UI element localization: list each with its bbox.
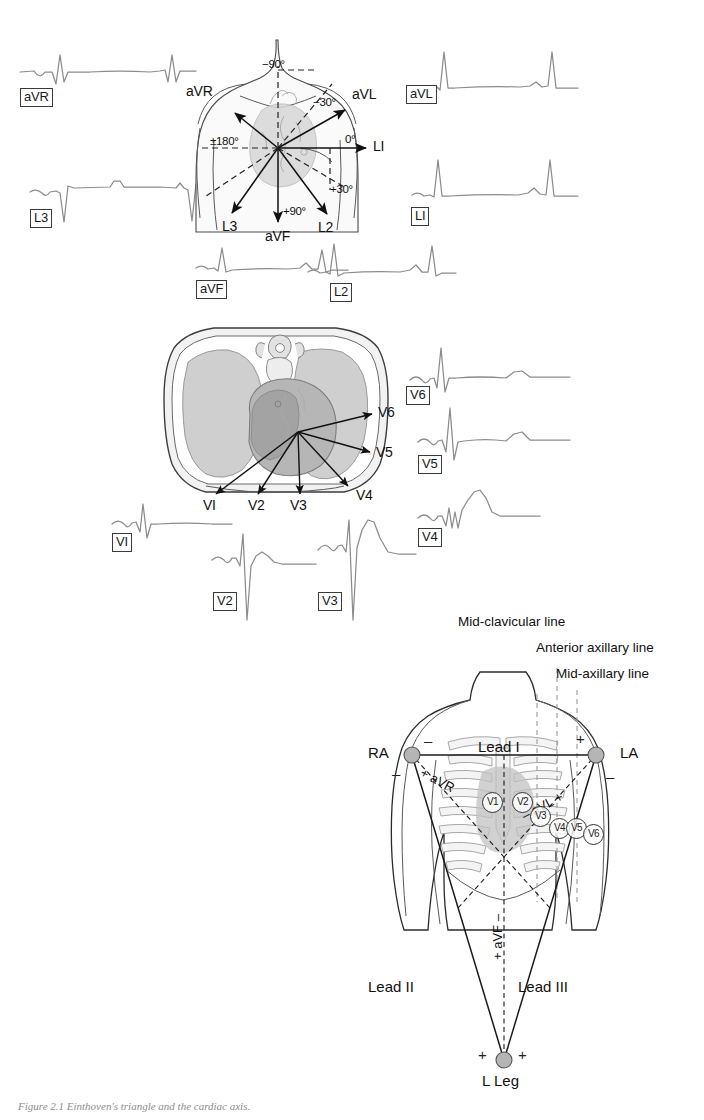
precordial-arrow-label-V1: VI [203, 497, 216, 513]
polarity-lleg-right: + [518, 1046, 527, 1063]
precordial-arrow-label-V4: V4 [356, 487, 373, 503]
axis-label-L3: L3 [222, 218, 237, 234]
lead-box-V6: V6 [406, 386, 430, 405]
angle-label-plus-30: +30° [330, 183, 353, 195]
guide-label-mid-clavicular: Mid-clavicular line [458, 614, 565, 629]
chest-electrode-V6: V6 [583, 824, 604, 845]
ecg-trace-aVL [412, 52, 578, 90]
polarity-ra-left: – [392, 765, 400, 782]
thorax-cross-section [164, 328, 388, 492]
electrode-LA [588, 747, 604, 763]
angle-label-zero: 0° [345, 133, 355, 145]
precordial-arrow-label-V3: V3 [290, 497, 307, 513]
ecg-trace-aVF [196, 248, 348, 272]
angle-label-minus-90: −90° [262, 58, 285, 70]
lead-box-V4: V4 [418, 528, 442, 547]
lead-label-lead-2: Lead II [368, 978, 414, 995]
angle-label-minus-30: −30° [313, 96, 336, 108]
lead-box-aVR: aVR [20, 88, 53, 107]
axis-label-aVF: aVF [265, 228, 290, 244]
ecg-trace-V6 [410, 348, 570, 392]
ecg-lead-figure: aVR aVL L3 LI aVF L2 aVR aVL LI L2 L3 aV… [0, 0, 704, 1120]
electrode-LLeg [496, 1052, 512, 1068]
lead-label-lead-3: Lead III [518, 978, 568, 995]
polarity-ra-top: – [424, 732, 432, 749]
guide-label-mid-axillary: Mid-axillary line [556, 666, 649, 681]
ecg-trace-L3 [30, 181, 210, 222]
lead-box-aVF: aVF [196, 280, 227, 299]
precordial-arrow-label-V5: V5 [376, 444, 393, 460]
precordial-arrow-label-V2: V2 [248, 497, 265, 513]
lead-box-V1: VI [112, 533, 132, 552]
ecg-trace-L2 [308, 244, 456, 276]
lead-box-aVL: aVL [406, 85, 437, 104]
electrode-label-LLeg: L Leg [482, 1072, 519, 1089]
chest-electrode-V3: V3 [530, 806, 551, 827]
axis-label-aVR: aVR [186, 83, 213, 99]
angle-label-plus-90: +90° [283, 205, 306, 217]
axis-label-aVL: aVL [352, 86, 376, 102]
electrode-label-LA: LA [620, 744, 638, 761]
precordial-arrow-label-V6: V6 [378, 404, 395, 420]
figure-vector-layer [0, 0, 704, 1120]
lead-box-V5: V5 [418, 455, 442, 474]
lead-box-V3: V3 [318, 592, 342, 611]
electrode-RA [404, 747, 420, 763]
electrode-label-RA: RA [368, 744, 389, 761]
augmented-label-aVF: + aVF – [490, 914, 505, 960]
lead-box-V2: V2 [213, 592, 237, 611]
lead-box-L2: L2 [330, 283, 352, 302]
polarity-la-top: + [576, 730, 585, 747]
chest-electrode-V2: V2 [512, 792, 533, 813]
ecg-trace-aVR [20, 55, 196, 84]
polarity-la-right: – [606, 768, 614, 785]
polarity-lleg-left: + [478, 1046, 487, 1063]
lead-box-L3: L3 [30, 209, 52, 228]
lead-box-L1: LI [411, 207, 429, 226]
angle-label-plus-minus-180: ±180° [210, 135, 239, 147]
guide-label-anterior-axillary: Anterior axillary line [536, 640, 654, 655]
ecg-trace-L1 [412, 160, 578, 197]
lead-label-lead-1: Lead I [478, 738, 520, 755]
chest-electrode-V1: V1 [482, 792, 503, 813]
ecg-trace-V4 [418, 490, 540, 528]
axis-label-L2: L2 [318, 219, 333, 235]
ecg-trace-V5 [418, 408, 570, 460]
axis-label-L1: LI [373, 138, 384, 154]
figure-caption: Figure 2.1 Einthoven's triangle and the … [18, 1100, 250, 1112]
